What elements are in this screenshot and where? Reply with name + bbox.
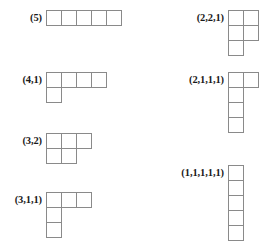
young-diagram-row [228, 180, 244, 196]
young-diagram-cell [46, 192, 62, 208]
young-diagram-cell [46, 222, 62, 238]
young-diagram [46, 192, 92, 238]
young-diagram-row [228, 165, 244, 181]
partition-label: (2,2,1) [130, 10, 228, 26]
young-diagram-row [228, 40, 244, 56]
young-diagram-row [228, 72, 259, 88]
young-diagram [228, 165, 244, 241]
partition-label: (1,1,1,1,1) [130, 165, 228, 181]
young-diagram-row [228, 195, 244, 211]
young-diagram-cell [46, 133, 62, 149]
young-diagram-row [46, 222, 62, 238]
young-diagram-row [46, 10, 122, 26]
young-diagram-cell [243, 25, 259, 41]
young-diagram-cell [61, 192, 77, 208]
young-diagram-cell [228, 40, 244, 56]
partition-figure-2-2-1: (2,2,1) [130, 10, 259, 56]
young-diagram-row [228, 87, 244, 103]
young-diagram-row [228, 102, 244, 118]
young-diagram-row [46, 207, 62, 223]
young-diagram-cell [228, 102, 244, 118]
partition-figure-3-2: (3,2) [0, 133, 92, 164]
young-diagram-cell [228, 165, 244, 181]
young-diagram-row [46, 72, 107, 88]
young-diagram-cell [61, 133, 77, 149]
young-diagram-cell [228, 10, 244, 26]
young-diagram-cell [61, 10, 77, 26]
young-diagram-cell [243, 10, 259, 26]
young-diagram-cell [106, 10, 122, 26]
young-diagram-cell [76, 192, 92, 208]
partition-figure-2-1-1-1: (2,1,1,1) [130, 72, 259, 133]
young-diagram-row [228, 225, 244, 241]
partition-label: (3,2) [0, 133, 46, 149]
young-diagram-row [46, 192, 92, 208]
young-diagram-row [46, 148, 77, 164]
young-diagram [228, 72, 259, 133]
young-diagram [228, 10, 259, 56]
young-diagram-cell [228, 180, 244, 196]
young-diagram-cell [91, 10, 107, 26]
partition-figure-5: (5) [0, 10, 122, 26]
young-diagram-row [46, 87, 62, 103]
young-diagram-cell [228, 117, 244, 133]
young-diagram-cell [228, 210, 244, 226]
young-diagram-cell [46, 148, 62, 164]
partition-figure-3-1-1: (3,1,1) [0, 192, 92, 238]
young-diagram-row [228, 210, 244, 226]
young-diagram-cell [61, 148, 77, 164]
partition-label: (5) [0, 10, 46, 26]
young-diagram-row [228, 10, 259, 26]
partition-figure-1-1-1-1-1: (1,1,1,1,1) [130, 165, 244, 241]
partition-label: (4,1) [0, 72, 46, 88]
partition-label: (3,1,1) [0, 192, 46, 208]
young-diagram-cell [228, 195, 244, 211]
young-diagram-cell [228, 87, 244, 103]
partition-label: (2,1,1,1) [130, 72, 228, 88]
young-diagram-row [228, 117, 244, 133]
young-diagram-cell [228, 225, 244, 241]
young-diagram-cell [76, 72, 92, 88]
young-diagram-cell [46, 87, 62, 103]
young-diagram-row [46, 133, 92, 149]
young-diagram-cell [76, 133, 92, 149]
young-diagram-cell [228, 72, 244, 88]
young-diagram-cell [76, 10, 92, 26]
young-diagram-row [228, 25, 259, 41]
young-diagram-cell [46, 72, 62, 88]
young-diagram-cell [91, 72, 107, 88]
young-diagram-cell [46, 10, 62, 26]
young-diagram-cell [243, 72, 259, 88]
young-diagram-cell [228, 25, 244, 41]
young-diagram-cell [61, 72, 77, 88]
young-diagram [46, 133, 92, 164]
partition-figure-4-1: (4,1) [0, 72, 107, 103]
young-diagram [46, 10, 122, 26]
young-diagram-cell [46, 207, 62, 223]
young-diagram [46, 72, 107, 103]
